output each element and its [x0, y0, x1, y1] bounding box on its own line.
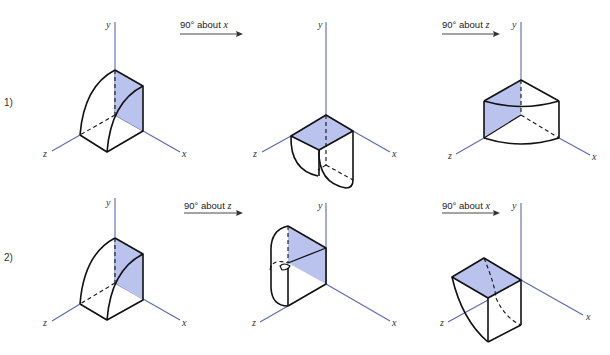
row2-fig-c: y x z [439, 200, 591, 342]
z-axis-label: z [439, 317, 444, 328]
rotation-label: 90° about [442, 200, 485, 211]
rotation-arrow-1-2: 90° about z [442, 19, 500, 37]
rotation-label: 90° about [180, 19, 223, 30]
rotation-axis: x [222, 19, 228, 30]
axes: y x z [447, 19, 597, 162]
shaded-face [115, 238, 143, 300]
z-axis-label: z [42, 148, 47, 159]
y-axis-label: y [105, 197, 111, 208]
svg-text:90° about x: 90° about x [180, 19, 228, 30]
y-axis-label: y [317, 200, 323, 211]
y-axis-label: y [105, 19, 111, 30]
x-axis-label: x [181, 148, 187, 159]
shaded-face [484, 80, 521, 138]
svg-text:90° about z: 90° about z [184, 200, 231, 211]
row2-fig-a: y x z [42, 197, 187, 328]
rotation-diagram: 1) 2) y x z 90° about x y x z [0, 0, 610, 355]
z-axis-label: z [251, 317, 256, 328]
shaded-face [291, 115, 353, 150]
x-axis-label: x [391, 148, 397, 159]
svg-text:90° about x: 90° about x [442, 200, 490, 211]
rotation-arrow-2-1: 90° about z [184, 200, 243, 216]
x-axis-label: x [591, 151, 597, 162]
row1-fig-a: y x z [42, 19, 187, 159]
shaded-face [452, 258, 521, 298]
x-axis-label: x [181, 317, 187, 328]
x-axis-label: x [585, 311, 591, 322]
z-axis-label: z [42, 317, 47, 328]
rotation-arrow-1-1: 90° about x [180, 19, 243, 37]
row1-fig-c: y x z [447, 19, 597, 162]
row1-fig-b: y x z [252, 19, 397, 188]
axes: y x z [439, 200, 591, 328]
rotation-label: 90° about [184, 200, 227, 211]
shaded-face [115, 70, 143, 131]
row-1-label: 1) [4, 97, 13, 108]
svg-text:90° about z: 90° about z [442, 19, 489, 30]
z-axis-label: z [252, 148, 257, 159]
rotation-label: 90° about [442, 19, 485, 30]
rotation-arrow-2-2: 90° about x [442, 200, 500, 216]
z-axis-label: z [447, 150, 452, 161]
axes: y x z [42, 19, 187, 159]
y-axis-label: y [317, 19, 323, 30]
rotation-axis: z [226, 200, 231, 211]
y-axis-label: y [511, 200, 517, 211]
row2-fig-b: y x z [251, 200, 397, 328]
x-axis-label: x [391, 317, 397, 328]
row-2-label: 2) [4, 252, 13, 263]
rotation-axis: x [484, 200, 490, 211]
y-axis-label: y [511, 19, 517, 30]
rotation-axis: z [484, 19, 489, 30]
